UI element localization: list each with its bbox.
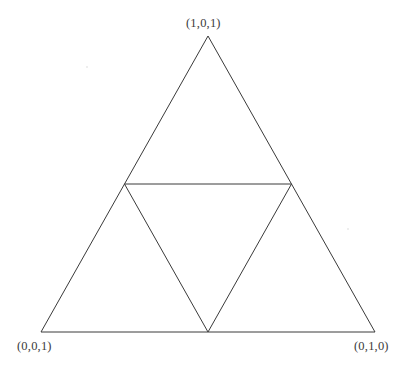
scan-artifact-speck: [86, 66, 88, 68]
medial-right-edge: [208, 184, 292, 332]
scan-artifact-speck: [347, 228, 349, 230]
vertex-label-bottom-left: (0,0,1): [17, 339, 52, 353]
vertex-label-bottom-right: (0,1,0): [354, 339, 389, 353]
diagram-canvas: (1,0,1) (0,0,1) (0,1,0): [0, 0, 414, 371]
triangle-figure: [0, 0, 414, 371]
medial-triangle: [125, 184, 292, 332]
vertex-label-top: (1,0,1): [186, 16, 221, 30]
medial-left-edge: [125, 184, 209, 332]
